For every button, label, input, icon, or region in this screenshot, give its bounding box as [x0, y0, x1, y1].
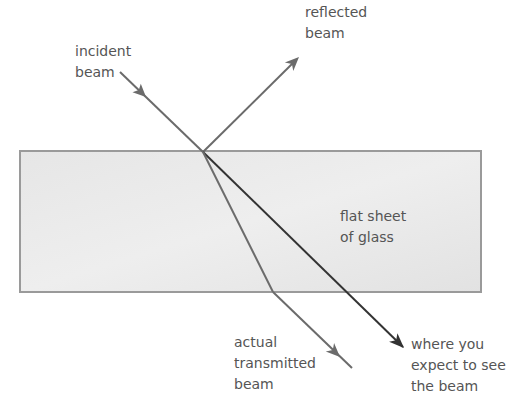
- incident-beam-label: incident beam: [75, 41, 131, 83]
- glass-sheet-label: flat sheet of glass: [340, 206, 406, 248]
- reflected-beam-label: reflected beam: [305, 2, 367, 44]
- expected-beam-label: where you expect to see the beam: [411, 334, 506, 397]
- transmitted-beam-label: actual transmitted beam: [234, 332, 316, 395]
- glass-sheet: [20, 151, 481, 292]
- incident-beam: [120, 72, 203, 152]
- reflected-beam: [203, 60, 296, 152]
